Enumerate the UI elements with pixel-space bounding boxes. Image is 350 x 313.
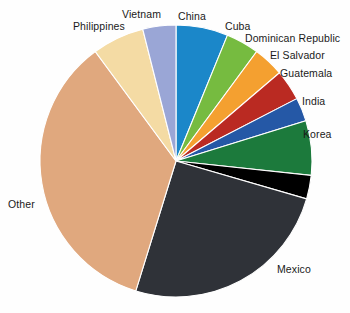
pie-label-philippines: Philippines: [73, 21, 125, 32]
pie-slice-group: [40, 25, 312, 297]
pie-label-korea: Korea: [303, 129, 332, 140]
pie-label-india: India: [302, 96, 325, 107]
pie-label-dominican-republic: Dominican Republic: [245, 33, 340, 44]
pie-label-other: Other: [8, 199, 35, 210]
pie-label-el-salvador: El Salvador: [270, 50, 325, 61]
pie-label-guatemala: Guatemala: [280, 68, 332, 79]
pie-chart: China Cuba Dominican Republic El Salvado…: [0, 0, 350, 313]
pie-label-cuba: Cuba: [225, 21, 251, 32]
pie-label-vietnam: Vietnam: [122, 9, 161, 20]
pie-label-mexico: Mexico: [277, 264, 311, 275]
pie-label-china: China: [178, 11, 206, 22]
